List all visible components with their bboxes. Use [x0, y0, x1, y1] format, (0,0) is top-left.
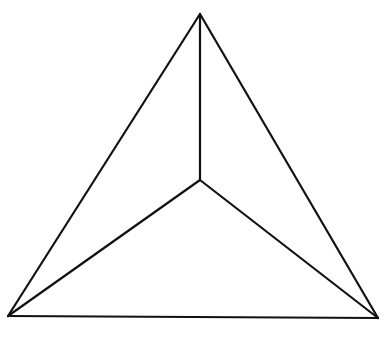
outer-right-edge: [200, 14, 378, 318]
diagram-canvas: [0, 0, 388, 343]
outer-bottom-edge: [8, 316, 378, 318]
inner-right-spoke: [200, 180, 378, 318]
inner-left-spoke: [8, 180, 200, 316]
triangle-figure: [0, 0, 388, 343]
outer-left-edge: [8, 14, 200, 316]
